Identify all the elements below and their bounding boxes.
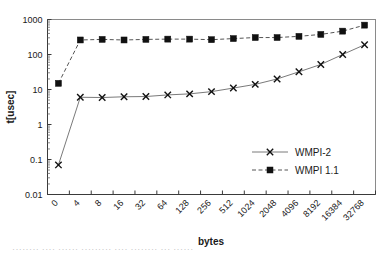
y-tick-label: 0.1 <box>30 155 43 165</box>
legend-marker-square-icon <box>267 167 273 173</box>
y-tick-label: 0.01 <box>25 190 43 200</box>
legend-label-2: WMPI 1.1 <box>295 165 339 176</box>
y-axis-title: t[usec] <box>5 91 16 124</box>
y-tick-label: 100 <box>27 50 42 60</box>
chart-background <box>0 0 389 257</box>
y-tick-label: 1000 <box>22 15 42 25</box>
y-tick-label: 1 <box>37 120 42 130</box>
chart-container: 0.010.11101001000 0481632641282565121024… <box>0 0 389 257</box>
page-caption-text: ········ ···· ······ ········· ···· ····… <box>12 246 194 254</box>
page-caption-strip: ········ ···· ······ ········· ···· ····… <box>0 246 389 257</box>
y-tick-label: 10 <box>32 85 42 95</box>
line-chart: 0.010.11101001000 0481632641282565121024… <box>0 0 389 257</box>
legend-label-1: WMPI-2 <box>295 147 332 158</box>
